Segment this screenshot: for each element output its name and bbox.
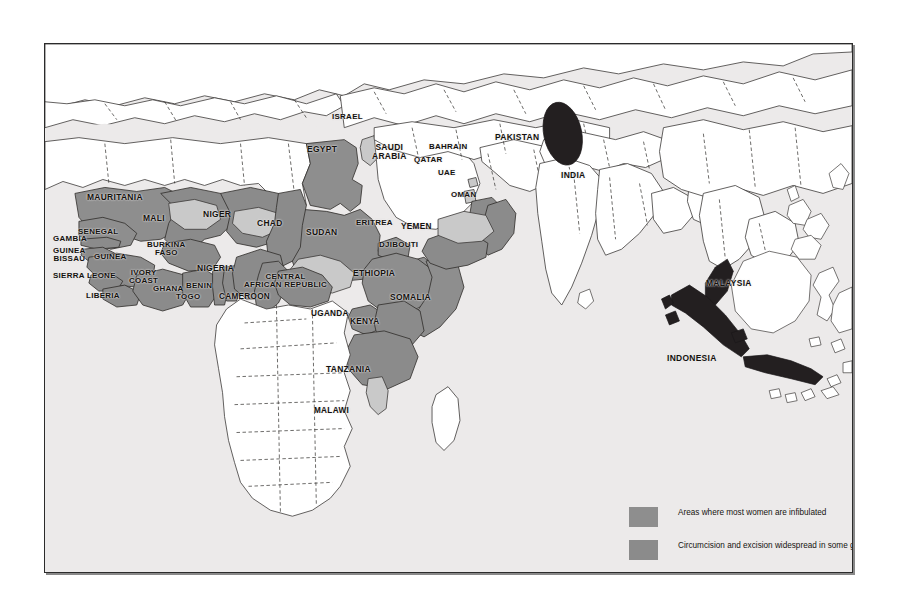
country-bahrain — [468, 177, 478, 187]
screenshot-root: .land{fill:#ffffff;stroke:#3c3a38;stroke… — [0, 0, 897, 611]
legend-swatch-infibulated — [629, 507, 658, 527]
country-ghana — [183, 269, 217, 307]
legend-item-some_cases: Some cases reported — [629, 572, 853, 573]
legend-label-widespread: Circumcision and excision widespread in … — [678, 541, 853, 552]
country-egypt — [302, 140, 362, 212]
map-frame: .land{fill:#ffffff;stroke:#3c3a38;stroke… — [44, 43, 853, 573]
legend-label-infibulated: Areas where most women are infibulated — [678, 508, 826, 519]
legend-swatch-widespread — [629, 540, 658, 560]
legend-item-infibulated: Areas where most women are infibulated — [629, 506, 853, 528]
world-map-svg: .land{fill:#ffffff;stroke:#3c3a38;stroke… — [45, 44, 852, 572]
map-legend: Areas where most women are infibulatedCi… — [629, 506, 853, 573]
legend-item-widespread: Circumcision and excision widespread in … — [629, 539, 853, 561]
